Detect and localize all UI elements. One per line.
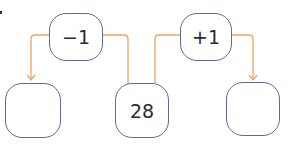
value-box-center: 28: [115, 83, 169, 138]
arrow-minus-to-left: [31, 35, 49, 80]
answer-box-right[interactable]: [226, 82, 280, 136]
line-plus-from-28: [155, 35, 180, 84]
operation-label: −1: [62, 26, 90, 48]
operation-label: +1: [192, 26, 220, 48]
operation-minus-one: −1: [49, 13, 103, 61]
arrow-plus-to-right: [231, 35, 253, 80]
value-label: 28: [130, 100, 154, 122]
operation-plus-one: +1: [180, 13, 232, 61]
answer-box-left[interactable]: [5, 83, 61, 138]
line-minus-from-28: [103, 35, 128, 84]
